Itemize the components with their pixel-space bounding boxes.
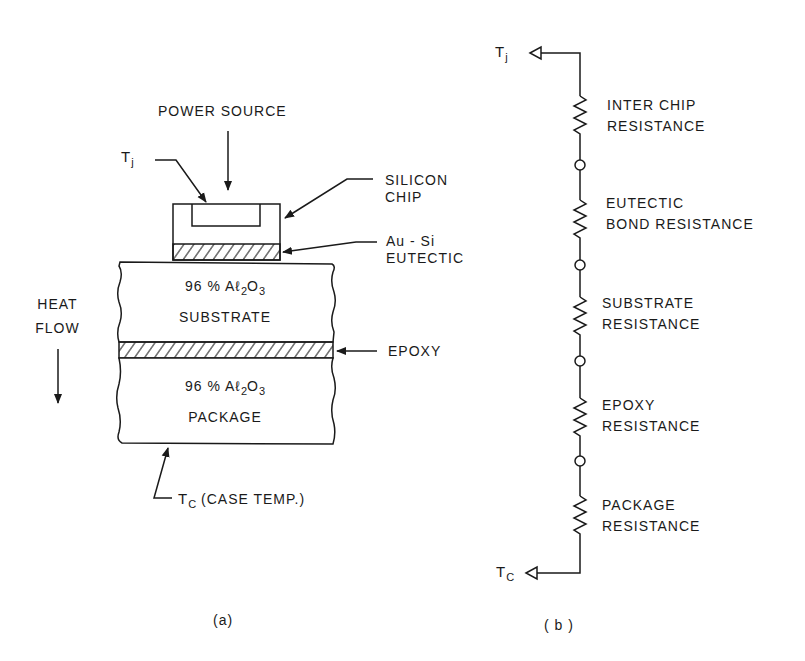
node-icon (575, 456, 585, 466)
tj-node-label: Tj (495, 43, 508, 66)
thermal-circuit-diagram (526, 47, 586, 579)
node-icon (575, 260, 585, 270)
heat-flow-label: HEAT FLOW (30, 296, 85, 337)
tc-case-temp-label: TC (CASE TEMP.) (178, 490, 305, 513)
tj-terminal-triangle-icon (530, 47, 541, 59)
node-icon (575, 356, 585, 366)
figure-b-caption: ( b ) (544, 617, 574, 634)
package-resistance-label: PACKAGE RESISTANCE (602, 497, 700, 535)
au-si-eutectic-layer (173, 244, 280, 260)
substrate-label: 96 % Aℓ2O3 SUBSTRATE (150, 278, 300, 326)
resistor-epoxy-icon (574, 398, 586, 456)
resistor-substrate-icon (574, 297, 586, 356)
tj-leader-arrow (155, 160, 206, 202)
tc-node-label: TC (496, 563, 514, 586)
resistor-package-icon (536, 496, 586, 573)
package-label: 96 % Aℓ2O3 PACKAGE (150, 378, 300, 426)
tc-leader-arrow (154, 448, 172, 498)
substrate-resistance-label: SUBSTRATE RESISTANCE (602, 295, 700, 333)
au-si-eutectic-label: Au - Si EUTECTIC (386, 233, 464, 267)
silicon-chip-leader-arrow (285, 179, 373, 218)
resistor-inter-chip-icon (574, 96, 586, 160)
eutectic-bond-resistance-label: EUTECTIC BOND RESISTANCE (606, 195, 754, 233)
tj-label: Tj (121, 148, 134, 171)
figure-a-caption: (a) (213, 612, 233, 629)
node-icon (575, 160, 585, 170)
epoxy-resistance-label: EPOXY RESISTANCE (602, 397, 700, 435)
tj-terminal-line (540, 53, 580, 96)
power-source-label: POWER SOURCE (158, 103, 287, 120)
epoxy-layer (119, 342, 333, 358)
silicon-chip-label: SILICON CHIP (385, 172, 448, 206)
epoxy-label: EPOXY (388, 343, 441, 360)
tc-terminal-triangle-icon (526, 567, 537, 579)
inter-chip-resistance-label: INTER CHIP RESISTANCE (607, 97, 705, 135)
resistor-eutectic-bond-icon (574, 200, 586, 260)
au-si-leader-arrow (283, 242, 377, 252)
